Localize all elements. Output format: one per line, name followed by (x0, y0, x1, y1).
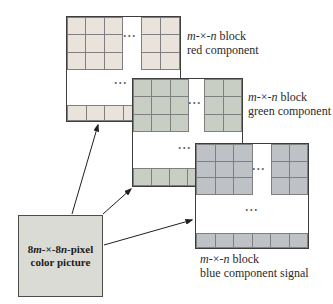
green-component-label: m-×-n block green component (248, 91, 331, 118)
block-cell (170, 169, 187, 185)
block-cell (161, 53, 179, 69)
block-grid-3x3 (67, 17, 123, 70)
block-cell (272, 145, 289, 161)
block-cell (253, 234, 271, 247)
block-row (196, 233, 308, 248)
block-cell (205, 97, 223, 113)
block-cell (224, 80, 242, 96)
block-cell (197, 234, 215, 247)
block-cell (234, 234, 252, 247)
block-cell (205, 115, 223, 131)
block-grid-3x3 (133, 79, 189, 132)
block-cell (216, 145, 234, 161)
ellipsis-icon: ... (114, 73, 128, 88)
block-cell (68, 53, 85, 69)
arrow-to-green-block (103, 189, 131, 214)
block-cell (234, 178, 252, 194)
blue-component-block: ... ... (195, 143, 309, 249)
block-size-text: m-×-n block (200, 253, 309, 267)
block-cell (290, 234, 308, 247)
block-cell (134, 80, 151, 96)
block-cell (134, 97, 151, 113)
ellipsis-icon: ... (178, 138, 192, 153)
block-cell (216, 178, 234, 194)
block-size-text: m-×-n block (187, 30, 259, 44)
color-picture-box: 8m-×-8n-pixel color picture (18, 215, 103, 297)
block-cell (134, 169, 151, 185)
arrow-to-red-block (72, 125, 98, 214)
component-name-text: blue component signal (200, 267, 309, 281)
component-name-text: green component (248, 105, 331, 119)
block-cell (68, 106, 86, 120)
block-cell (152, 169, 169, 185)
block-cell (142, 18, 160, 34)
block-cell (224, 115, 242, 131)
block-cell (216, 234, 234, 247)
block-cell (86, 18, 103, 34)
arrow-to-blue-block (104, 220, 192, 245)
block-cell (272, 178, 289, 194)
ellipsis-icon: ... (188, 93, 202, 108)
ellipsis-icon: ... (245, 200, 259, 215)
block-cell (161, 35, 179, 51)
block-cell (142, 35, 160, 51)
block-cell (86, 35, 103, 51)
block-cell (197, 162, 215, 178)
figure-canvas: ... ... ... ... ... ... m-×-n block red … (0, 0, 333, 304)
block-grid-3x3 (196, 144, 253, 195)
block-cell (224, 97, 242, 113)
block-cell (161, 18, 179, 34)
block-cell (290, 162, 307, 178)
block-cell (271, 234, 289, 247)
block-cell (105, 106, 123, 120)
block-cell (197, 145, 215, 161)
block-cell (152, 97, 169, 113)
block-cell (290, 178, 307, 194)
block-grid-2x3 (204, 79, 242, 132)
block-cell (205, 80, 223, 96)
block-cell (197, 178, 215, 194)
block-cell (234, 162, 252, 178)
block-cell (272, 162, 289, 178)
block-grid-2x3 (271, 144, 308, 195)
ellipsis-icon: ... (252, 159, 266, 174)
block-cell (216, 162, 234, 178)
picture-caption-text: color picture (28, 256, 94, 269)
component-name-text: red component (187, 44, 259, 58)
block-cell (171, 80, 188, 96)
block-cell (68, 18, 85, 34)
block-cell (134, 115, 151, 131)
ellipsis-icon: ... (123, 26, 137, 41)
picture-size-text: 8m-×-8n-pixel (28, 243, 94, 256)
block-cell (152, 115, 169, 131)
block-grid-2x3 (141, 17, 180, 70)
block-cell (171, 115, 188, 131)
block-size-text: m-×-n block (248, 91, 331, 105)
blue-component-label: m-×-n block blue component signal (200, 253, 309, 280)
block-cell (87, 106, 105, 120)
block-cell (68, 35, 85, 51)
block-cell (171, 97, 188, 113)
block-cell (105, 35, 122, 51)
block-cell (105, 53, 122, 69)
red-component-label: m-×-n block red component (187, 30, 259, 57)
block-cell (152, 80, 169, 96)
block-cell (142, 53, 160, 69)
block-cell (234, 145, 252, 161)
block-cell (105, 18, 122, 34)
block-cell (86, 53, 103, 69)
block-cell (290, 145, 307, 161)
